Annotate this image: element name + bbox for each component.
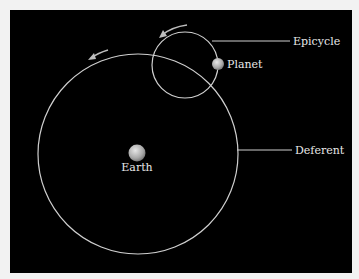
earth-sphere: [129, 145, 146, 162]
deferent-label: Deferent: [295, 144, 345, 157]
planet-sphere: [212, 58, 224, 70]
planet-label: Planet: [227, 58, 263, 71]
epicycle-circle: [152, 32, 218, 98]
earth-label: Earth: [121, 161, 152, 174]
epicycle-label: Epicycle: [293, 35, 340, 48]
deferent-direction-arrow-icon: [88, 50, 108, 60]
epicycle-diagram: Earth Planet Epicycle Deferent: [0, 0, 359, 279]
